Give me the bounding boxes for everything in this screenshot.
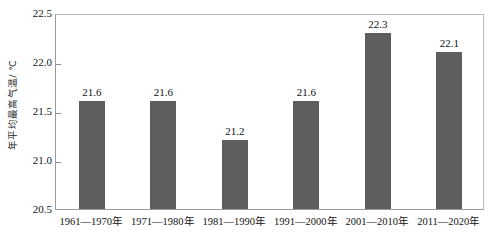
x-axis-tick-label: 1971—1980年	[131, 216, 194, 228]
bar-group: 21.6	[56, 15, 128, 209]
x-axis-tick-label: 1981—1990年	[203, 216, 266, 228]
bar[interactable]	[79, 101, 105, 209]
x-axis-tick-label: 1961—1970年	[60, 216, 123, 228]
bar-value-label: 21.6	[297, 87, 316, 98]
x-axis-tick-labels: 1961—1970年1971—1980年1981—1990年1991—2000年…	[55, 216, 484, 240]
bar-value-label: 21.2	[225, 126, 244, 137]
y-axis-tick-label: 22.0	[6, 57, 52, 68]
y-axis-tick-labels: 20.521.021.522.022.5	[4, 0, 52, 251]
x-axis-tick-label: 2011—2020年	[417, 216, 479, 228]
y-axis-tick-label: 22.5	[6, 8, 52, 19]
bar-group: 22.3	[342, 15, 414, 209]
bar-chart: 年平均最高气温/ ℃ 20.521.021.522.022.5 21.621.6…	[0, 0, 493, 251]
bar-value-label: 21.6	[154, 87, 173, 98]
x-axis-tick-label: 2001—2010年	[346, 216, 409, 228]
plot-area: 21.621.621.221.622.322.1	[55, 14, 484, 210]
y-axis-tick-label: 20.5	[6, 204, 52, 215]
y-axis-tick-label: 21.5	[6, 106, 52, 117]
bar[interactable]	[150, 101, 176, 209]
bar-value-label: 21.6	[82, 87, 101, 98]
bar-group: 21.2	[199, 15, 271, 209]
bar[interactable]	[293, 101, 319, 209]
bar[interactable]	[365, 33, 391, 209]
bar-value-label: 22.1	[440, 38, 459, 49]
x-axis-tick-label: 1991—2000年	[274, 216, 337, 228]
bar-group: 21.6	[271, 15, 343, 209]
bar-group: 22.1	[414, 15, 486, 209]
bar[interactable]	[436, 52, 462, 209]
bar-value-label: 22.3	[368, 19, 387, 30]
y-axis-tick-label: 21.0	[6, 155, 52, 166]
bar[interactable]	[222, 140, 248, 209]
bars-layer: 21.621.621.221.622.322.1	[56, 15, 483, 209]
bar-group: 21.6	[128, 15, 200, 209]
